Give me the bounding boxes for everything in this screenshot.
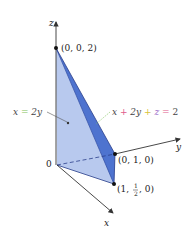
apex-label: (0, 0, 2)	[61, 43, 97, 53]
point-corner	[112, 182, 116, 186]
x-axis-label: x	[104, 218, 109, 228]
y-axis-label: y	[175, 142, 182, 152]
svg-text:x = 2y: x = 2y	[13, 107, 43, 117]
svg-text:(1,: (1,	[117, 184, 129, 194]
y-intercept-label: (0, 1, 0)	[118, 155, 154, 165]
pointer-line-main	[96, 112, 110, 124]
svg-text:x + 2y + z = 2: x + 2y + z = 2	[112, 107, 178, 117]
plane-main-label: x + 2y + z = 2	[96, 107, 178, 124]
svg-text:1: 1	[134, 182, 138, 189]
corner-label: (1, 1 2 , 0)	[117, 182, 154, 197]
y-axis	[115, 139, 180, 154]
point-apex	[54, 46, 58, 50]
svg-text:, 0): , 0)	[139, 184, 154, 194]
diagram-svg: z y x 0 (0, 0, 2) (0, 1, 0) (1, 1 2 , 0)…	[0, 0, 191, 235]
svg-text:2: 2	[134, 190, 138, 197]
point-y-intercept	[113, 152, 117, 156]
z-axis-label: z	[48, 18, 54, 28]
tetrahedron-diagram: z y x 0 (0, 0, 2) (0, 1, 0) (1, 1 2 , 0)…	[0, 0, 191, 235]
origin-label: 0	[46, 159, 52, 169]
